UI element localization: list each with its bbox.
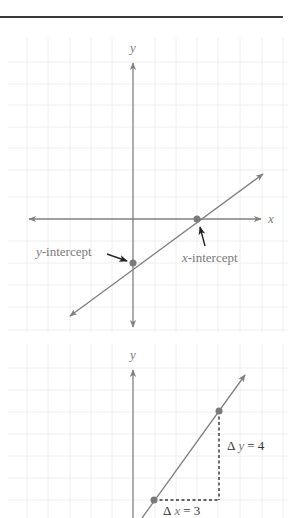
x-intercept-label: x-intercept [181, 250, 238, 265]
grid-2 [8, 344, 288, 518]
graph-line [70, 174, 263, 316]
figure-slope: y Δy= 4 Δx= 3 [8, 344, 288, 518]
x-intercept-callout-arrow [200, 227, 205, 246]
lower-point [151, 497, 158, 504]
y-axis-label: y [128, 40, 136, 55]
slope-intercept-figure: y x y-intercept x-intercept y [0, 0, 298, 518]
header-rule [0, 16, 283, 18]
y-axis-label-2: y [128, 347, 136, 362]
delta-x-label: Δx= 3 [163, 503, 200, 518]
y-intercept-callout-arrow [107, 254, 127, 261]
grid-1 [8, 38, 288, 332]
x-axis-label: x [267, 211, 274, 226]
delta-y-label: Δy= 4 [227, 438, 265, 453]
figure-intercepts: y x y-intercept x-intercept [8, 38, 288, 332]
y-intercept-point [130, 260, 137, 267]
upper-point [216, 408, 223, 415]
y-intercept-label: y-intercept [34, 244, 92, 259]
x-intercept-point [194, 216, 201, 223]
